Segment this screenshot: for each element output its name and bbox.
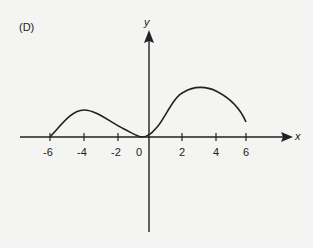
x-tick-label: 6 xyxy=(243,147,249,158)
chart-plot xyxy=(0,0,313,248)
x-tick-label: -6 xyxy=(43,147,53,158)
y-axis-label: y xyxy=(144,17,150,28)
x-tick-label: -4 xyxy=(77,147,87,158)
function-curve xyxy=(50,87,246,137)
x-tick-label: 2 xyxy=(179,147,185,158)
x-axis-label: x xyxy=(295,131,301,142)
x-tick-label: 0 xyxy=(136,147,142,158)
x-tick-label: 4 xyxy=(213,147,219,158)
x-tick-label: -2 xyxy=(111,147,121,158)
